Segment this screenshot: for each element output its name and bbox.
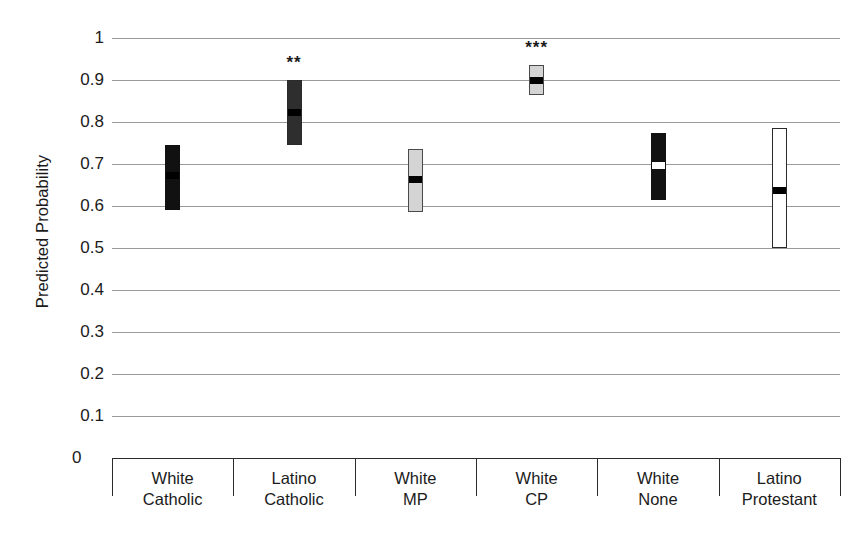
gridline <box>112 290 840 291</box>
category-label-line: Latino <box>233 468 354 489</box>
x-axis-category-label: WhiteCP <box>476 468 597 510</box>
plot-area: ***** <box>112 38 840 458</box>
gridline <box>112 416 840 417</box>
x-axis-category-label: WhiteNone <box>597 468 718 510</box>
gridline <box>112 374 840 375</box>
category-label-line: White <box>597 468 718 489</box>
point-estimate-marker <box>166 172 179 179</box>
category-label-line: Catholic <box>233 489 354 510</box>
gridline <box>112 38 840 39</box>
category-label-line: None <box>597 489 718 510</box>
gridline <box>112 80 840 81</box>
point-estimate-marker <box>288 109 301 116</box>
y-axis-tick-label: 0.7 <box>8 155 104 172</box>
y-axis-tick-label: 0.4 <box>8 281 104 298</box>
category-label-line: Catholic <box>112 489 233 510</box>
category-label-line: White <box>112 468 233 489</box>
x-axis-category-label: LatinoCatholic <box>233 468 354 510</box>
interval-bar <box>651 133 666 200</box>
y-axis-tick-label: 0.3 <box>8 323 104 340</box>
category-label-line: CP <box>476 489 597 510</box>
interval-bar <box>408 149 423 212</box>
x-axis-category-label: WhiteCatholic <box>112 468 233 510</box>
gridline <box>112 122 840 123</box>
interval-bar <box>287 80 302 145</box>
significance-marker: *** <box>525 38 548 58</box>
point-estimate-marker <box>409 176 422 183</box>
chart-page: Predicted Probability 10.90.80.70.60.50.… <box>0 0 858 560</box>
category-label-line: White <box>476 468 597 489</box>
category-label-line: Protestant <box>719 489 840 510</box>
interval-bar <box>772 128 787 248</box>
point-estimate-marker <box>773 187 786 194</box>
significance-marker: ** <box>286 53 301 73</box>
gridline <box>112 332 840 333</box>
gridline <box>112 206 840 207</box>
y-axis-tick-label: 0.9 <box>8 71 104 88</box>
category-label-line: Latino <box>719 468 840 489</box>
category-label-line: White <box>355 468 476 489</box>
y-axis-tick-label: 0.8 <box>8 113 104 130</box>
interval-bar <box>529 65 544 94</box>
x-axis-category-label: WhiteMP <box>355 468 476 510</box>
gridline <box>112 164 840 165</box>
x-axis-category-label: LatinoProtestant <box>719 468 840 510</box>
category-label-line: MP <box>355 489 476 510</box>
y-axis-tick-label: 0.5 <box>8 239 104 256</box>
x-axis-tick <box>840 458 841 496</box>
gridline <box>112 248 840 249</box>
y-axis-tick-label: 1 <box>8 29 104 46</box>
y-axis-tick-label: 0.2 <box>8 365 104 382</box>
point-estimate-marker <box>530 77 543 84</box>
point-estimate-marker <box>652 162 665 169</box>
x-axis-zero-label: 0 <box>72 448 81 468</box>
interval-bar <box>165 145 180 210</box>
y-axis-tick-label: 0.1 <box>8 407 104 424</box>
y-axis-tick-label: 0.6 <box>8 197 104 214</box>
